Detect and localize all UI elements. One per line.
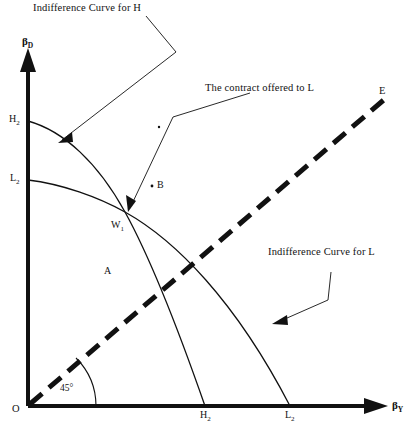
- leader-arrowhead-indifference-h: [58, 132, 73, 143]
- diagram-canvas: [0, 0, 412, 425]
- x-tick-l2: L2: [285, 410, 295, 423]
- angle-arc-45: [76, 358, 96, 406]
- y-axis-arrowhead: [20, 48, 36, 72]
- point-b-label: B: [157, 180, 164, 190]
- x-tick-h2: H2: [200, 410, 211, 423]
- point-w1-label: W1: [111, 220, 124, 233]
- leader-arrowhead-indifference-l: [272, 315, 288, 325]
- x-axis-arrowhead: [364, 398, 388, 414]
- dot-point-b: [151, 185, 154, 188]
- indifference-curve-figure: βD βY O H2 L2 H2 L2 W1 B A E 45° Indiffe…: [0, 0, 412, 425]
- leader-indifference-l: [278, 272, 331, 322]
- annotation-indifference-l: Indifference Curve for L: [268, 247, 375, 258]
- angle-label-45: 45°: [60, 384, 73, 394]
- annotation-indifference-h: Indifference Curve for H: [33, 3, 141, 14]
- indifference-curve-l: [28, 180, 290, 406]
- annotation-contract-l: The contract offered to L: [205, 83, 314, 94]
- dot-unlabeled-upper: [158, 126, 160, 128]
- x-axis-label: βY: [392, 400, 403, 414]
- y-axis-label: βD: [22, 36, 33, 50]
- y-tick-l2: L2: [10, 173, 20, 186]
- region-a-label: A: [104, 266, 111, 276]
- indifference-curve-h: [28, 121, 205, 406]
- origin-label: O: [12, 404, 20, 415]
- y-tick-h2: H2: [9, 114, 20, 127]
- leader-indifference-h: [62, 16, 176, 140]
- ray-end-label-e: E: [379, 86, 385, 97]
- leader-contract-l: [131, 93, 250, 206]
